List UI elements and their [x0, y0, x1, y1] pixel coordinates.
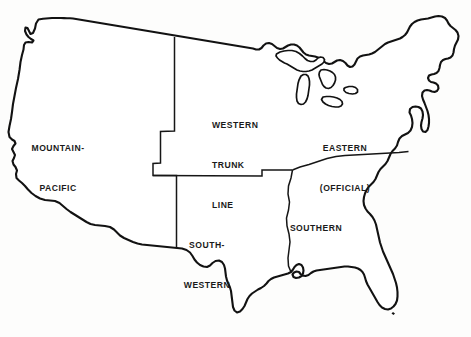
- eastern-line-1: EASTERN: [290, 142, 400, 155]
- western-trunk-line-3: LINE: [212, 199, 258, 212]
- western-trunk-line-1: WESTERN: [212, 119, 258, 132]
- south-western-line-1: SOUTH-: [157, 239, 257, 252]
- region-label-south-western[interactable]: SOUTH- WESTERN: [157, 213, 257, 319]
- southern-line-1: SOUTHERN: [266, 222, 366, 235]
- eastern-line-2: (OFFICIAL): [290, 182, 400, 195]
- mountain-pacific-line-2: PACIFIC: [0, 182, 116, 195]
- south-western-line-2: WESTERN: [157, 279, 257, 292]
- region-label-southern[interactable]: SOUTHERN: [266, 196, 366, 262]
- lake-ontario-path: [344, 87, 358, 95]
- region-label-mountain-pacific[interactable]: MOUNTAIN- PACIFIC: [0, 116, 116, 222]
- us-railroad-rate-territory-map: MOUNTAIN- PACIFIC WESTERN TRUNK LINE EAS…: [0, 0, 471, 337]
- mountain-pacific-line-1: MOUNTAIN-: [0, 142, 116, 155]
- western-trunk-line-2: TRUNK: [212, 159, 258, 172]
